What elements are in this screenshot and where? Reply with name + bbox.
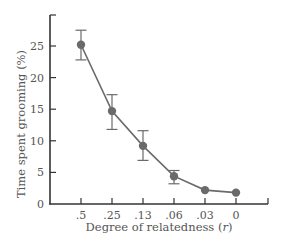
- x-axis-label-prefix: Degree of relatedness (: [86, 220, 223, 234]
- y-axis: 0510152025: [30, 15, 56, 211]
- y-tick-label: 5: [37, 166, 44, 179]
- y-tick-label: 25: [30, 40, 44, 53]
- data-point: [139, 142, 147, 150]
- data-point: [77, 41, 85, 49]
- y-tick-label: 15: [30, 103, 44, 116]
- relatedness-grooming-chart: 0510152025 .5.25.13.06.030 Time spent gr…: [0, 0, 281, 251]
- y-tick-label: 10: [30, 135, 44, 148]
- x-tick-label: 0: [233, 209, 240, 222]
- y-tick-label: 0: [37, 198, 44, 211]
- y-axis-label: Time spent grooming (%): [14, 50, 28, 198]
- data-markers: [77, 41, 240, 197]
- error-bars: [76, 30, 180, 184]
- y-tick-label: 20: [30, 72, 44, 85]
- x-axis: .5.25.13.06.030: [49, 198, 268, 222]
- x-axis-label: Degree of relatedness (r): [86, 220, 233, 234]
- data-point: [170, 172, 178, 180]
- x-axis-label-suffix: ): [228, 220, 233, 234]
- series-line: [81, 45, 236, 193]
- data-point: [232, 188, 240, 196]
- data-point: [108, 107, 116, 115]
- data-point: [201, 186, 209, 194]
